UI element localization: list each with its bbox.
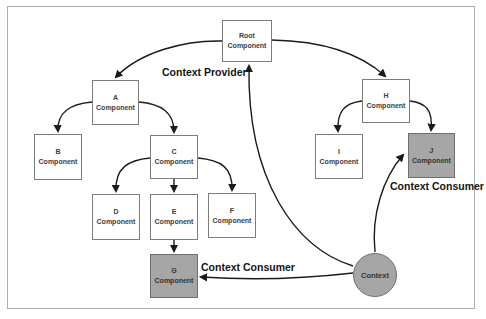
arrow-c-to-d	[116, 158, 150, 191]
node-g-line1: G	[171, 266, 176, 276]
node-f-line1: F	[230, 206, 234, 216]
node-j-component-consumer: J Component	[408, 133, 455, 178]
node-context: Context	[353, 253, 397, 297]
node-b-line1: B	[55, 147, 60, 157]
node-d-component: D Component	[92, 194, 140, 240]
label-context-consumer-right: Context Consumer	[390, 180, 484, 192]
node-root-line1: Root	[239, 31, 255, 41]
arrow-h-to-i	[338, 101, 362, 131]
node-g-component-consumer: G Component	[150, 254, 198, 298]
node-h-component: H Component	[362, 79, 410, 123]
node-c-line2: Component	[155, 157, 194, 167]
node-a-component: A Component	[92, 80, 139, 125]
context-label: Context	[361, 271, 389, 280]
node-h-line2: Component	[367, 101, 406, 111]
arrow-a-to-b	[58, 102, 92, 131]
node-d-line1: D	[113, 207, 118, 217]
label-context-consumer-left: Context Consumer	[201, 261, 295, 273]
node-e-line1: E	[172, 207, 177, 217]
node-d-line2: Component	[97, 217, 136, 227]
node-a-line2: Component	[96, 103, 135, 113]
node-a-line1: A	[113, 93, 118, 103]
node-i-line2: Component	[320, 157, 359, 167]
arrow-context-to-j	[374, 155, 403, 252]
arrow-root-to-h	[272, 40, 385, 76]
node-root-component: Root Component	[222, 20, 272, 62]
node-f-line2: Component	[213, 216, 252, 226]
label-context-provider: Context Provider	[162, 66, 247, 78]
node-c-line1: C	[171, 147, 176, 157]
node-h-line1: H	[383, 91, 388, 101]
node-e-component: E Component	[150, 194, 198, 240]
node-i-component: I Component	[315, 134, 363, 179]
node-f-component: F Component	[208, 193, 256, 238]
arrow-c-to-f	[198, 158, 232, 190]
node-root-line2: Component	[228, 41, 267, 51]
node-i-line1: I	[338, 147, 340, 157]
arrow-context-to-g	[201, 273, 353, 279]
node-b-component: B Component	[34, 134, 82, 180]
node-c-component: C Component	[150, 135, 198, 179]
node-j-line2: Component	[412, 156, 451, 166]
node-b-line2: Component	[39, 157, 78, 167]
arrow-h-to-j	[410, 101, 431, 130]
arrow-a-to-c	[139, 102, 174, 132]
node-j-line1: J	[430, 146, 434, 156]
node-e-line2: Component	[155, 217, 194, 227]
diagram-canvas: Root Component A Component B Component C…	[0, 0, 486, 319]
node-g-line2: Component	[155, 276, 194, 286]
